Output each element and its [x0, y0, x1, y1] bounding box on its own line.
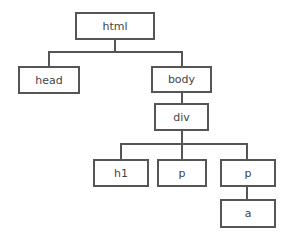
connector-to-p2 [246, 143, 248, 159]
connector-to-head [48, 51, 50, 66]
dom-tree-diagram: html head body div h1 p p a [0, 0, 296, 243]
node-p2: p [220, 159, 276, 187]
connector-body-div [181, 92, 183, 103]
connector-div-vertical [181, 130, 183, 144]
node-head: head [18, 66, 80, 94]
node-body: body [151, 66, 212, 93]
connector-to-body [181, 51, 183, 66]
connector-p2-a [246, 186, 248, 199]
connector-to-h1 [120, 143, 122, 159]
node-html: html [75, 12, 155, 40]
connector-to-p1 [181, 143, 183, 159]
node-p1: p [157, 159, 207, 187]
node-h1: h1 [93, 159, 149, 187]
connector-html-horizontal [48, 51, 183, 53]
node-div: div [154, 103, 209, 131]
node-a: a [220, 199, 276, 228]
connector-div-horizontal [120, 143, 248, 145]
